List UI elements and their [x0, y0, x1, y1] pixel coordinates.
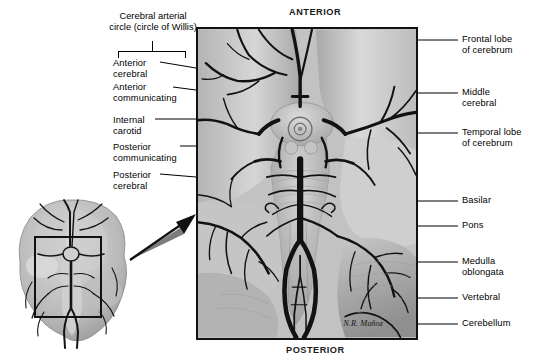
artist-signature: N.R. Muñoz — [342, 319, 383, 328]
brain-base-arteries-illustration: N.R. Muñoz — [198, 29, 416, 338]
bracket-left-tick — [118, 51, 119, 58]
label-anterior-communicating: Anterior communicating — [113, 82, 198, 103]
label-vertebral: Vertebral — [462, 292, 534, 303]
orientation-label-posterior: POSTERIOR — [286, 345, 345, 355]
bracket-center-tick — [152, 41, 153, 51]
label-frontal-lobe: Frontal lobe of cerebrum — [462, 34, 534, 55]
magnification-arrow — [128, 212, 198, 264]
label-posterior-cerebral: Posterior cerebral — [113, 170, 191, 191]
label-temporal-lobe: Temporal lobe of cerebrum — [462, 127, 536, 148]
figure-canvas: ANTERIOR POSTERIOR Cerebral arterial cir… — [0, 0, 536, 362]
label-anterior-cerebral: Anterior cerebral — [113, 58, 191, 79]
orientation-label-anterior: ANTERIOR — [289, 7, 341, 17]
label-medulla-oblongata: Medulla oblongata — [462, 256, 534, 277]
label-basilar: Basilar — [462, 195, 534, 206]
label-posterior-communicating: Posterior communicating — [113, 142, 198, 163]
label-middle-cerebral: Middle cerebral — [462, 87, 534, 108]
label-cerebellum: Cerebellum — [462, 318, 534, 329]
label-pons: Pons — [462, 220, 534, 231]
label-internal-carotid: Internal carotid — [113, 115, 191, 136]
main-illustration-panel: N.R. Muñoz — [196, 27, 418, 340]
bracket-top-bar — [118, 51, 186, 52]
bracket-right-tick — [185, 51, 186, 58]
